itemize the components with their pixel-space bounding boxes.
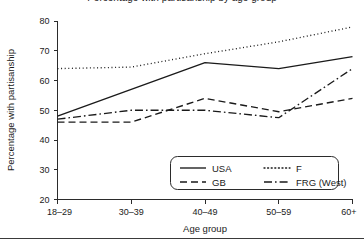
y-tick-label: 40: [39, 135, 49, 145]
x-tick-label: 18–29: [47, 207, 72, 217]
y-tick-label: 60: [39, 76, 49, 86]
x-tick-label: 60+: [341, 207, 356, 217]
legend-label-frg-west: FRG (West): [296, 177, 347, 188]
legend-label-gb: GB: [212, 177, 226, 188]
x-axis-label: Age group: [183, 223, 227, 234]
x-tick-label: 30–39: [119, 207, 144, 217]
x-tick-label: 40–49: [192, 207, 217, 217]
y-tick-label: 50: [39, 106, 49, 116]
figure-container: Percentage with partisanship by age grou…: [0, 0, 364, 247]
legend-label-f: F: [296, 163, 302, 174]
legend-label-usa: USA: [212, 163, 232, 174]
line-chart: 20304050607080 18–2930–3940–4950–5960+ P…: [0, 6, 364, 238]
y-tick-label: 30: [39, 165, 49, 175]
bottom-divider: [0, 238, 364, 239]
legend: USAFGBFRG (West): [171, 157, 347, 190]
y-axis-label: Percentage with partisanship: [5, 49, 16, 171]
x-tick-label: 50–59: [266, 207, 291, 217]
cropped-title-text: Percentage with partisanship by age grou…: [0, 0, 364, 3]
y-tick-label: 80: [39, 16, 49, 26]
y-tick-label: 70: [39, 46, 49, 56]
chart-background: [0, 6, 364, 238]
y-tick-label: 20: [39, 195, 49, 205]
